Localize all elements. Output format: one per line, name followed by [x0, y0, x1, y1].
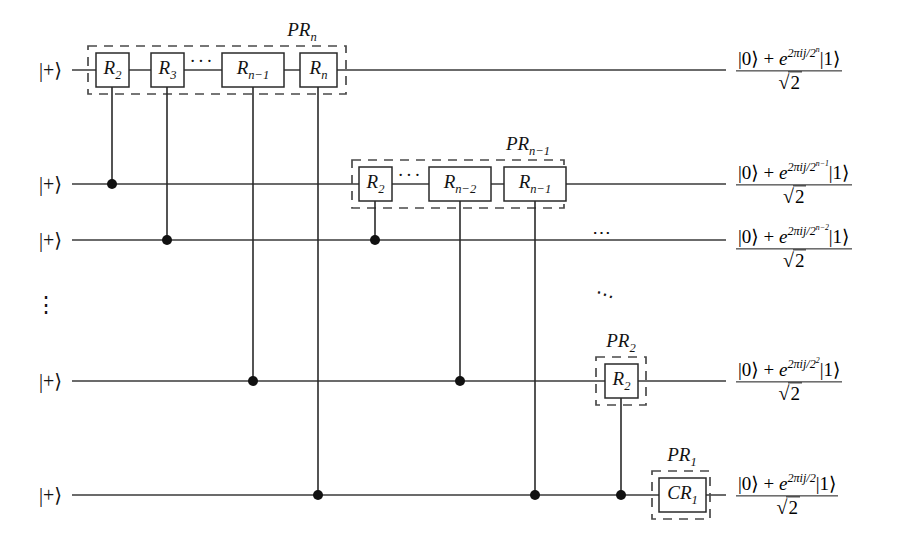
gate-sub: n−2: [455, 182, 476, 196]
gate-label-g3: Rn−1: [237, 57, 270, 83]
gate-sub: n−1: [530, 182, 551, 196]
input-ket-3: |+⟩: [39, 228, 62, 252]
output-exp-sup: n−2: [816, 223, 829, 232]
group-sub: n: [310, 30, 316, 44]
row1-inline-ellipsis: ···: [190, 50, 215, 72]
output-denominator: 2: [736, 186, 852, 208]
rows-horizontal-ellipsis: ⋯: [592, 221, 613, 244]
input-ket-5: |+⟩: [39, 483, 62, 507]
output-pre: |0⟩ +: [738, 359, 779, 380]
gate-base: R: [310, 57, 322, 78]
output-state-4: |0⟩ + e2πij/22|1⟩ 2: [736, 357, 842, 404]
gate-base: R: [237, 57, 249, 78]
gate-sub: 2: [115, 68, 121, 82]
output-pre: |0⟩ +: [738, 473, 779, 494]
output-exp-main: 2πij/2: [787, 224, 815, 238]
gate-sub: n−1: [248, 68, 269, 82]
output-exp: 2πij/2n−2: [787, 224, 828, 238]
gate-base: R: [613, 368, 625, 389]
row2-inline-ellipsis: ···: [398, 164, 423, 186]
control-dot-g1: [107, 179, 117, 189]
qubit-rows-vertical-ellipsis: ⋮: [35, 292, 57, 318]
gate-label-g2: R3: [159, 57, 177, 83]
output-state-5: |0⟩ + e2πij/2|1⟩ 2: [736, 471, 838, 518]
gate-sub: n: [321, 68, 327, 82]
input-ket-2: |+⟩: [39, 172, 62, 196]
output-exp-main: 2πij/2: [787, 160, 815, 174]
group-label-pr-2: PR2: [606, 330, 635, 356]
output-exp: 2πij/2: [787, 471, 815, 485]
output-state-3: |0⟩ + e2πij/2n−2|1⟩ 2: [736, 224, 852, 271]
group-base: PR: [287, 19, 310, 40]
gate-sub: 2: [378, 182, 384, 196]
gate-base: R: [159, 57, 171, 78]
gate-label-g6: Rn−2: [444, 171, 477, 197]
output-exp: 2πij/2n: [787, 46, 819, 60]
output-pre: |0⟩ +: [738, 226, 779, 247]
gate-sub: 1: [692, 493, 698, 507]
output-post: |1⟩: [829, 162, 850, 183]
output-exp-main: 2πij/2: [787, 357, 815, 371]
output-state-2: |0⟩ + e2πij/2n−1|1⟩ 2: [736, 160, 852, 207]
output-pre: |0⟩ +: [738, 162, 779, 183]
gate-sub: 3: [170, 68, 176, 82]
output-denominator: 2: [736, 72, 842, 94]
output-post: |1⟩: [816, 473, 837, 494]
output-den-value: 2: [786, 497, 800, 519]
control-dot-g8: [616, 490, 626, 500]
output-pre: |0⟩ +: [738, 48, 779, 69]
group-base: PR: [506, 133, 529, 154]
output-exp: 2πij/22: [787, 357, 819, 371]
group-label-pr-n-1: PRn−1: [506, 133, 550, 159]
output-numerator: |0⟩ + e2πij/2n−1|1⟩: [736, 160, 852, 185]
output-exp-main: 2πij/2: [787, 46, 815, 60]
input-ket-1: |+⟩: [39, 58, 62, 82]
gate-label-g4: Rn: [310, 57, 328, 83]
gate-label-g7: Rn−1: [519, 171, 552, 197]
group-label-pr-1: PR1: [667, 444, 696, 470]
output-numerator: |0⟩ + e2πij/2|1⟩: [736, 471, 838, 496]
gate-label-g8: R2: [613, 368, 631, 394]
output-post: |1⟩: [820, 359, 841, 380]
output-numerator: |0⟩ + e2πij/22|1⟩: [736, 357, 842, 382]
group-sub: 2: [629, 341, 635, 355]
output-den-value: 2: [788, 72, 802, 94]
group-sub: n−1: [529, 144, 550, 158]
output-numerator: |0⟩ + e2πij/2n|1⟩: [736, 46, 842, 71]
control-dot-g6: [455, 376, 465, 386]
output-den-value: 2: [793, 250, 807, 272]
input-ket-4: |+⟩: [39, 369, 62, 393]
control-dot-g3: [248, 376, 258, 386]
control-dot-g5: [370, 235, 380, 245]
output-den-value: 2: [788, 383, 802, 405]
group-sub: 1: [690, 455, 696, 469]
group-label-pr-n: PRn: [287, 19, 316, 45]
control-dot-g2: [162, 235, 172, 245]
quantum-circuit-figure: |+⟩ |+⟩ |+⟩ |+⟩ |+⟩ ⋮ R2 R3 Rn−1 Rn R2 R…: [0, 0, 912, 554]
output-denominator: 2: [736, 497, 838, 519]
gate-base: R: [367, 171, 379, 192]
gate-sub: 2: [624, 379, 630, 393]
group-base: PR: [667, 444, 690, 465]
gate-label-g1: R2: [104, 57, 122, 83]
gate-base: R: [444, 171, 456, 192]
output-state-1: |0⟩ + e2πij/2n|1⟩ 2: [736, 46, 842, 93]
gate-label-g5: R2: [367, 171, 385, 197]
output-denominator: 2: [736, 383, 842, 405]
gate-base: R: [104, 57, 116, 78]
output-post: |1⟩: [829, 226, 850, 247]
gate-base: R: [519, 171, 531, 192]
gate-base: CR: [667, 482, 691, 503]
output-post: |1⟩: [820, 48, 841, 69]
output-denominator: 2: [736, 250, 852, 272]
control-dot-g4: [313, 490, 323, 500]
output-exp-main: 2πij/2: [787, 471, 815, 485]
group-base: PR: [606, 330, 629, 351]
output-numerator: |0⟩ + e2πij/2n−2|1⟩: [736, 224, 852, 249]
output-den-value: 2: [793, 186, 807, 208]
output-exp-sup: n−1: [816, 159, 829, 168]
output-exp: 2πij/2n−1: [787, 160, 828, 174]
gate-label-g9: CR1: [667, 482, 698, 508]
control-dot-g7: [530, 490, 540, 500]
